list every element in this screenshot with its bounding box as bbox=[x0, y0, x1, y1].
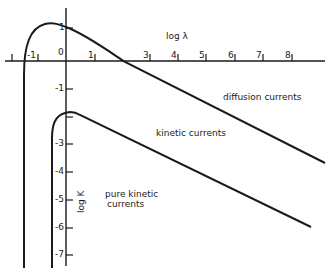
pure-kinetic-label-line2: currents bbox=[107, 199, 144, 209]
y-ticks bbox=[66, 28, 73, 255]
x-tick-label-4: 4 bbox=[171, 50, 177, 60]
y-tick-label-minus1: -1 bbox=[55, 83, 64, 93]
kinetic-currents-label: kinetic currents bbox=[156, 128, 226, 138]
x-axis-label: log λ bbox=[166, 31, 189, 41]
x-tick-label-3: 3 bbox=[143, 50, 149, 60]
diffusion-currents-label: diffusion currents bbox=[223, 92, 302, 102]
pure-kinetic-label-line1: pure kinetic bbox=[105, 189, 158, 199]
log-k-vs-log-lambda-diagram: -1 0 1 3 4 5 6 7 8 log λ 1 -1 -3 -4 -5 -… bbox=[0, 0, 327, 277]
x-tick-label-5: 5 bbox=[199, 50, 205, 60]
y-tick-label-minus5: -5 bbox=[55, 194, 64, 204]
x-tick-label-8: 8 bbox=[285, 50, 291, 60]
x-tick-label-6: 6 bbox=[228, 50, 234, 60]
x-ticks bbox=[12, 54, 292, 61]
y-axis-label: log K bbox=[76, 189, 86, 213]
y-tick-label-minus6: -6 bbox=[55, 222, 64, 232]
y-tick-label-minus4: -4 bbox=[55, 166, 64, 176]
x-tick-label-minus1: -1 bbox=[27, 50, 36, 60]
y-tick-label-minus3: -3 bbox=[55, 138, 64, 148]
x-tick-label-1: 1 bbox=[88, 50, 94, 60]
x-tick-label-7: 7 bbox=[256, 50, 262, 60]
y-tick-label-minus7: -7 bbox=[55, 249, 64, 259]
x-tick-label-0: 0 bbox=[58, 47, 64, 57]
